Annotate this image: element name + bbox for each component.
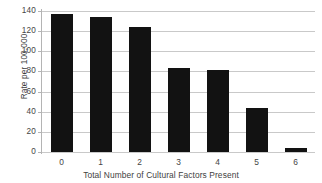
y-axis-tick: 140 bbox=[0, 6, 36, 16]
gridline bbox=[42, 152, 315, 153]
gridline bbox=[42, 51, 315, 52]
y-axis-tick-label: 20 bbox=[4, 127, 36, 136]
y-axis-tick-label: 60 bbox=[4, 87, 36, 96]
x-axis-tick-label: 3 bbox=[167, 157, 191, 167]
x-axis-tick-label: 2 bbox=[128, 157, 152, 167]
y-axis-tick: 80 bbox=[0, 66, 36, 76]
y-axis-tick: 0 bbox=[0, 147, 36, 157]
y-axis-tick: 120 bbox=[0, 26, 36, 36]
bar bbox=[90, 17, 112, 152]
y-axis-tick: 60 bbox=[0, 87, 36, 97]
x-axis-tick-label: 6 bbox=[284, 157, 308, 167]
bar bbox=[207, 70, 229, 152]
bar-chart: Rate per 100,000 020406080100120140 0123… bbox=[0, 0, 322, 183]
y-axis-tick: 40 bbox=[0, 107, 36, 117]
bar bbox=[129, 27, 151, 152]
y-axis-tick-label: 80 bbox=[4, 66, 36, 75]
y-axis-tick-label: 40 bbox=[4, 107, 36, 116]
x-axis-tick-label: 0 bbox=[50, 157, 74, 167]
x-axis-tick-label: 1 bbox=[89, 157, 113, 167]
bar bbox=[51, 14, 73, 152]
bar bbox=[168, 68, 190, 152]
y-axis-tick-label: 140 bbox=[4, 6, 36, 15]
y-axis-tick-label: 100 bbox=[4, 46, 36, 55]
y-axis-tick: 100 bbox=[0, 46, 36, 56]
x-axis-tick-label: 5 bbox=[245, 157, 269, 167]
bar bbox=[246, 108, 268, 152]
x-axis-title: Total Number of Cultural Factors Present bbox=[0, 170, 322, 180]
bar bbox=[285, 148, 307, 152]
plot-area bbox=[42, 11, 315, 152]
y-axis-tick: 20 bbox=[0, 127, 36, 137]
gridline bbox=[42, 11, 315, 12]
y-axis-tick-label: 120 bbox=[4, 26, 36, 35]
gridline bbox=[42, 31, 315, 32]
x-axis-tick-label: 4 bbox=[206, 157, 230, 167]
y-axis-tick-label: 0 bbox=[4, 147, 36, 156]
